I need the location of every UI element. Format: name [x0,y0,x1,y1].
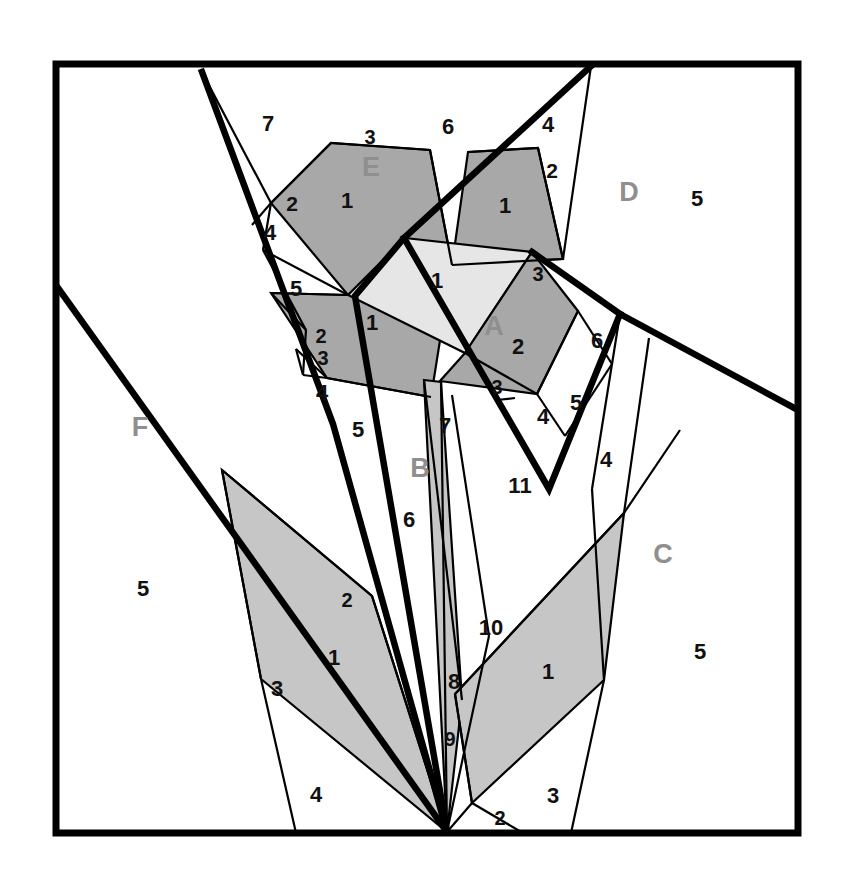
piece-number-cc2: 2 [494,807,505,829]
piece-number-f5: 5 [137,576,149,601]
dissection-figure: 1234567123451123452345647611108951234123… [0,0,845,878]
piece-number-d2: 2 [546,159,558,182]
piece-number-d4: 4 [542,112,555,137]
piece-number-a4b: 4 [600,447,613,472]
piece-number-f3: 3 [271,676,283,701]
piece-number-b7: 7 [439,413,451,438]
piece-number-b10: 10 [479,615,503,640]
piece-number-cc3: 3 [547,783,559,808]
piece-number-cc1: 1 [542,659,554,684]
piece-number-f2: 2 [341,589,352,611]
piece-number-a4: 4 [537,404,550,429]
piece-number-a3: 3 [491,376,502,398]
piece-number-e7: 7 [262,111,274,136]
group-label-F: F [132,412,149,442]
group-label-D: D [619,177,639,207]
piece-number-f1: 1 [328,645,340,670]
piece-number-e1: 1 [341,188,353,213]
piece-number-c2: 1 [366,310,378,335]
piece-number-cc5: 5 [694,639,706,664]
piece-number-e6: 6 [442,114,454,139]
group-label-B: B [410,453,430,483]
piece-number-c3: 2 [315,325,326,347]
diagram-canvas: 1234567123451123452345647611108951234123… [0,0,845,878]
piece-number-d5: 5 [691,186,703,211]
piece-number-e5: 5 [290,276,302,301]
group-label-E: E [362,152,380,182]
piece-number-b11: 11 [508,473,531,498]
group-label-A: A [484,311,504,341]
piece-number-c6: 5 [352,417,364,442]
piece-number-b8: 8 [448,669,460,694]
piece-number-c4: 3 [317,347,328,369]
piece-number-d3: 3 [532,263,543,285]
piece-number-a2: 2 [512,334,524,359]
piece-number-e4: 4 [264,220,277,245]
piece-number-e3: 3 [364,126,375,148]
group-label-C: C [653,539,673,569]
piece-number-b9: 9 [444,728,455,750]
piece-number-e2: 2 [286,192,298,215]
piece-number-a6: 6 [591,328,603,353]
piece-number-a5: 5 [570,390,582,415]
piece-number-c5: 4 [316,380,329,405]
piece-number-b6: 6 [403,507,415,532]
piece-number-d1: 1 [499,193,511,218]
piece-number-c1: 1 [431,268,443,293]
piece-number-f4: 4 [310,782,323,807]
